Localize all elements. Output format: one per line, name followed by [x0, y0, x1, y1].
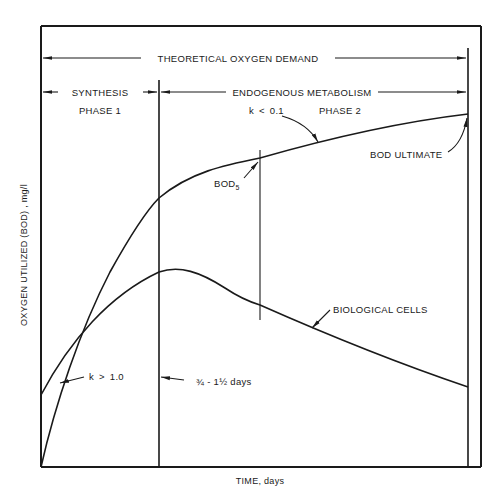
bod-diagram: THEORETICAL OXYGEN DEMAND SYNTHESIS PHAS…: [0, 0, 499, 496]
svg-text:BOD ULTIMATE: BOD ULTIMATE: [370, 149, 442, 160]
days-marker-annotation: ¾ - 1½ days: [161, 376, 252, 387]
biological-cells-annotation: BIOLOGICAL CELLS: [312, 304, 428, 328]
svg-text:BOD5: BOD5: [214, 178, 240, 191]
k-high-annotation: k > 1.0: [60, 371, 124, 383]
endogenous-label: ENDOGENOUS METABOLISM: [232, 87, 371, 98]
svg-text:k > 1.0: k > 1.0: [89, 371, 124, 382]
bod-curve: [41, 114, 468, 467]
phase1-label: PHASE 1: [79, 105, 121, 116]
endogenous-span: ENDOGENOUS METABOLISM PHASE 2: [161, 87, 466, 117]
svg-text:BIOLOGICAL CELLS: BIOLOGICAL CELLS: [333, 304, 428, 315]
k-low-annotation: k < 0.1: [249, 105, 318, 142]
synthesis-label: SYNTHESIS: [72, 87, 129, 98]
tod-label: THEORETICAL OXYGEN DEMAND: [158, 53, 319, 64]
y-axis-label: OXYGEN UTILIZED (BOD) , mg/l: [19, 184, 29, 326]
svg-text:¾ - 1½ days: ¾ - 1½ days: [196, 376, 252, 387]
x-axis-label: TIME, days: [236, 476, 285, 486]
synthesis-span: SYNTHESIS PHASE 1: [43, 87, 157, 117]
phase2-label: PHASE 2: [319, 105, 361, 116]
bod-ultimate-annotation: BOD ULTIMATE: [370, 118, 467, 160]
tod-span: THEORETICAL OXYGEN DEMAND: [43, 53, 466, 64]
svg-text:k < 0.1: k < 0.1: [249, 105, 284, 116]
